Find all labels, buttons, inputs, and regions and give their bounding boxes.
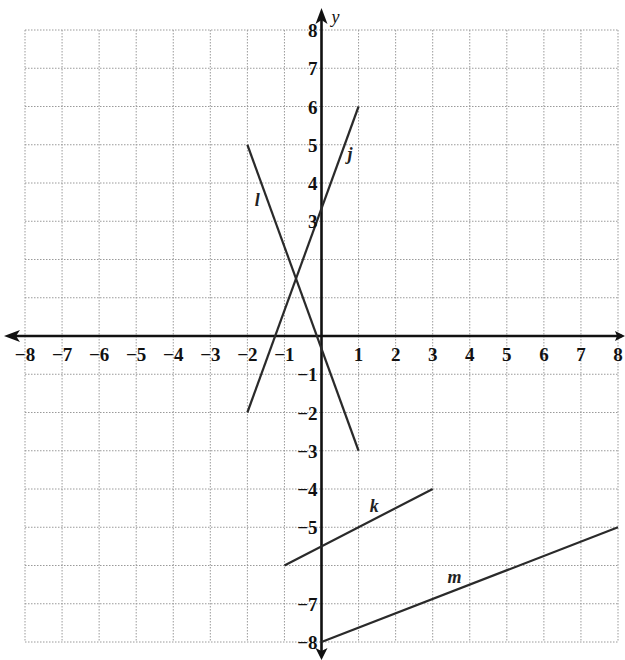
line-m-label: m (448, 567, 462, 587)
x-tick-label: 4 (465, 344, 475, 365)
y-tick-label: 4 (308, 173, 318, 194)
y-tick-label: −7 (297, 594, 318, 615)
y-tick-label: 7 (308, 58, 318, 79)
x-tick-label: 8 (613, 344, 623, 365)
x-tick-label: −1 (274, 344, 294, 365)
y-tick-label: 8 (308, 20, 318, 41)
coordinate-plane: y jlkm −8−7−6−5−4−3−2−112345678876543−1−… (0, 0, 625, 660)
x-tick-label: −2 (237, 344, 257, 365)
y-axis-label: y (330, 7, 340, 27)
y-tick-label: −1 (297, 364, 317, 385)
x-tick-label: 3 (428, 344, 438, 365)
line-l-label: l (255, 190, 260, 210)
y-tick-label: 5 (308, 135, 318, 156)
x-tick-label: −6 (89, 344, 109, 365)
line-k-label: k (370, 496, 379, 516)
x-tick-label: −8 (15, 344, 35, 365)
y-tick-label: 3 (308, 211, 318, 232)
y-tick-label: −8 (297, 632, 317, 653)
x-tick-label: −5 (126, 344, 146, 365)
line-j-label: j (344, 144, 353, 164)
y-tick-label: −5 (297, 517, 317, 538)
x-tick-label: 7 (576, 344, 586, 365)
x-tick-label: 6 (539, 344, 549, 365)
y-tick-label: −4 (297, 479, 318, 500)
x-tick-label: −7 (52, 344, 73, 365)
x-tick-label: 5 (502, 344, 512, 365)
x-tick-label: 1 (354, 344, 364, 365)
y-tick-label: −3 (297, 441, 317, 462)
x-tick-label: 2 (391, 344, 401, 365)
y-tick-label: −2 (297, 403, 317, 424)
x-tick-label: −4 (163, 344, 184, 365)
x-tick-label: −3 (200, 344, 220, 365)
y-tick-label: 6 (308, 97, 318, 118)
